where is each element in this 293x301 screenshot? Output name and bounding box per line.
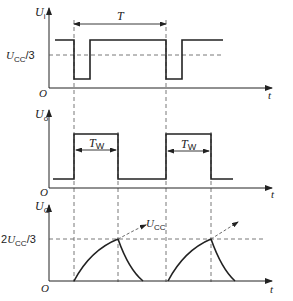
- capacitor-x-label: t: [270, 283, 274, 295]
- asymptote-label: UCC: [146, 217, 166, 232]
- pulse-width-label-1: TW: [89, 136, 105, 151]
- capacitor-charge-curve-2: [168, 239, 211, 281]
- input-panel: T Ui UCC/3 O t: [6, 5, 272, 101]
- output-y-label: Uo: [35, 107, 49, 123]
- asymptote-trend-1: [118, 225, 146, 239]
- output-panel: TW TW Uo O t: [35, 107, 275, 200]
- output-waveform: [53, 134, 233, 179]
- input-x-label: t: [268, 89, 272, 101]
- output-origin-label: O: [40, 186, 48, 198]
- capacitor-panel: UCC UC 2UCC/3 O t: [1, 199, 274, 295]
- pulse-width-label-2: TW: [181, 137, 197, 152]
- timing-diagram: T Ui UCC/3 O t TW TW Uo O t UCC UC 2UCC/…: [0, 0, 293, 301]
- input-y-label: Ui: [35, 5, 46, 21]
- input-origin-label: O: [39, 87, 47, 99]
- output-x-label: t: [271, 188, 275, 200]
- input-threshold-label: UCC/3: [6, 49, 35, 64]
- capacitor-charge-curve-1: [74, 239, 118, 281]
- capacitor-discharge-curve-1: [118, 239, 143, 281]
- capacitor-y-label: UC: [35, 199, 50, 215]
- capacitor-discharge-curve-2: [211, 239, 235, 281]
- asymptote-trend-2: [211, 222, 238, 239]
- period-label: T: [117, 9, 125, 23]
- capacitor-origin-label: O: [41, 282, 49, 294]
- input-waveform: [55, 40, 223, 79]
- capacitor-threshold-label: 2UCC/3: [1, 233, 36, 248]
